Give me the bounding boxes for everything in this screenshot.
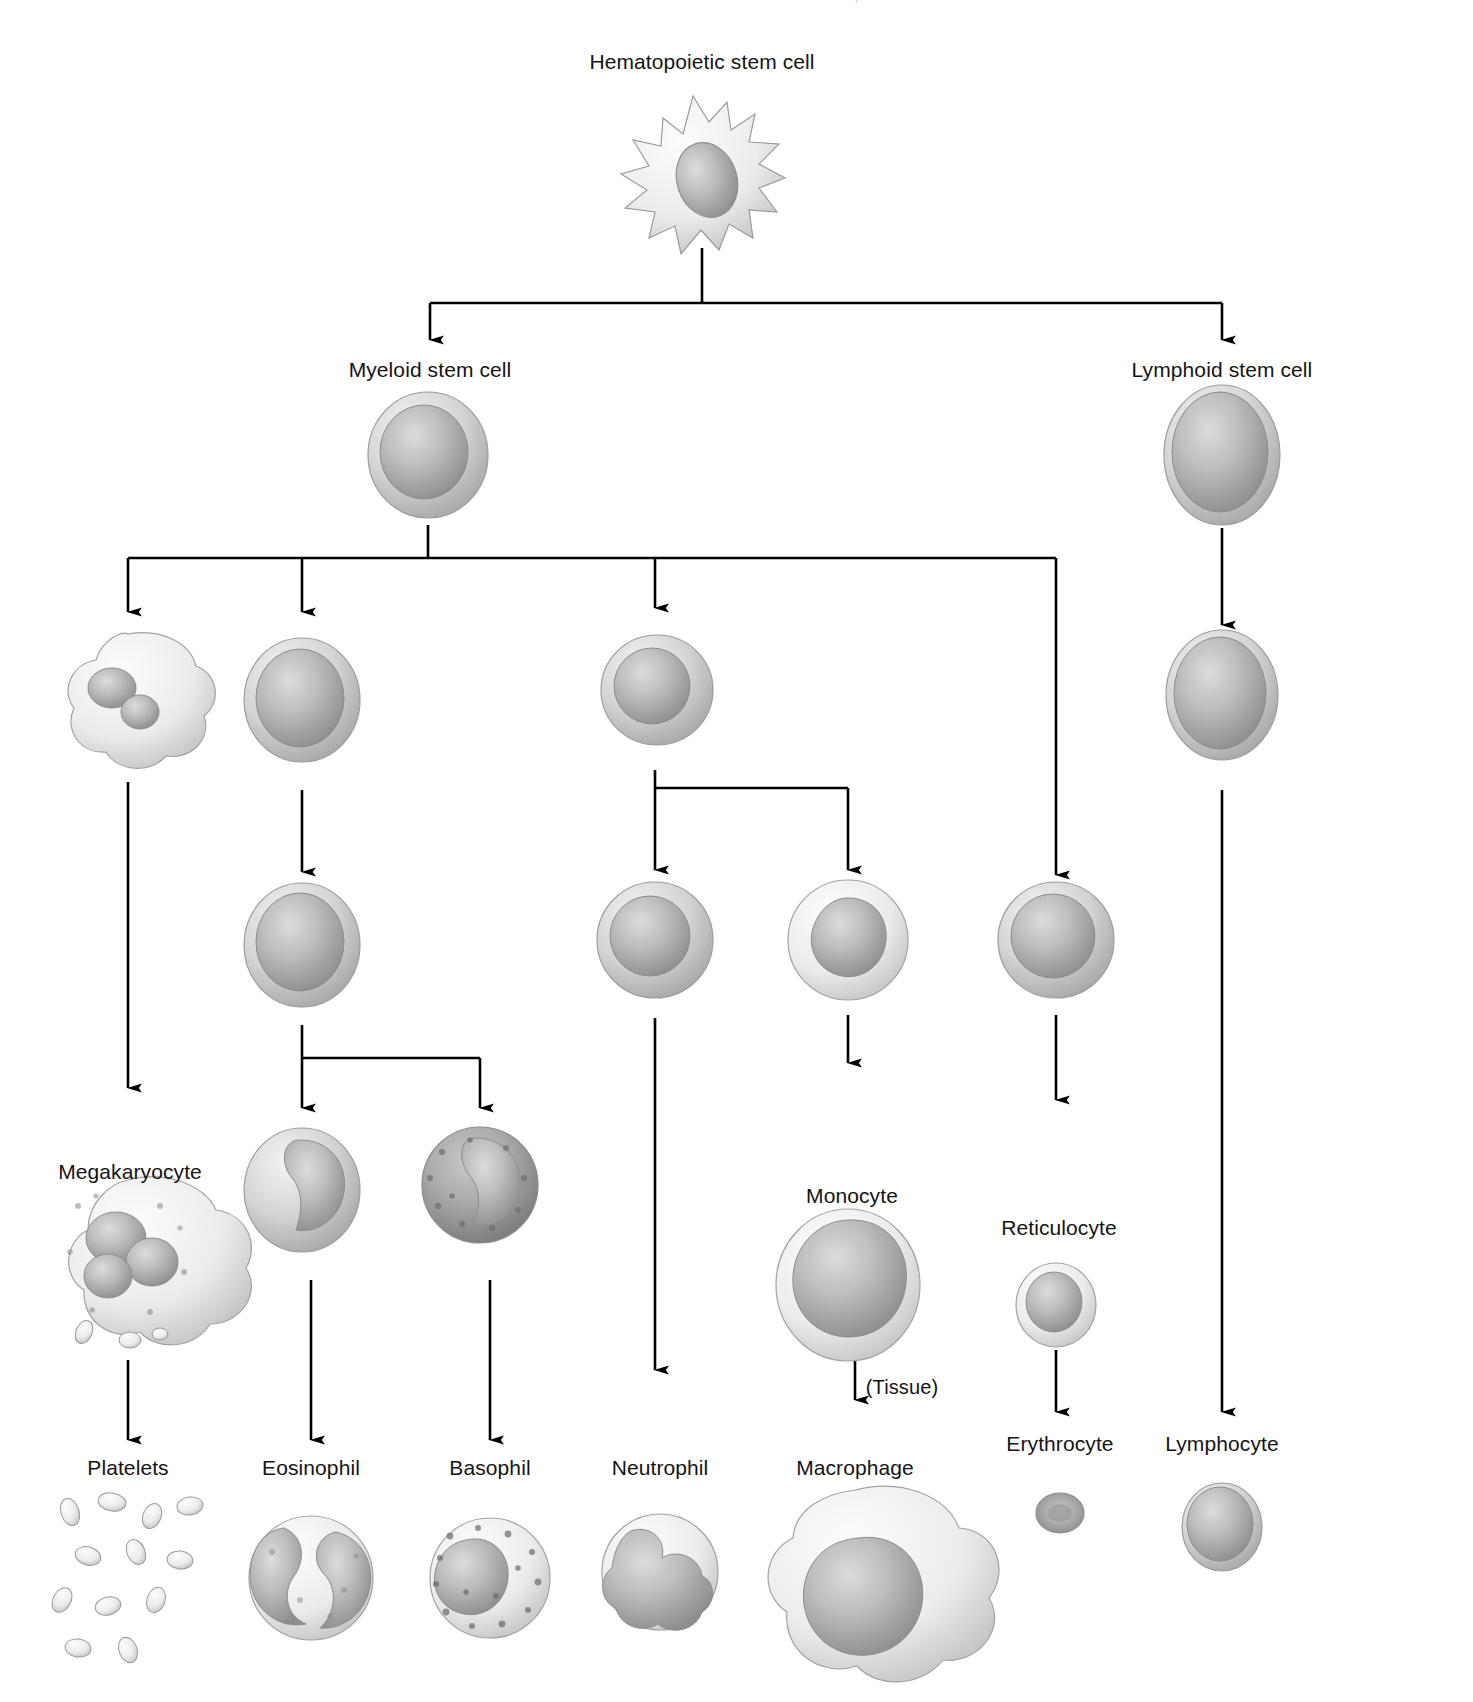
cell-erythroblast <box>998 882 1114 998</box>
label-megakaryocyte: Megakaryocyte <box>58 1160 202 1184</box>
cell-hematopoietic-stem-cell <box>621 96 785 254</box>
cell-erythrocyte <box>1036 1493 1084 1533</box>
cell-megakaryoblast <box>68 633 215 769</box>
hematopoiesis-diagram: l <box>0 0 1473 1702</box>
label-neutrophil: Neutrophil <box>612 1456 709 1480</box>
cell-eosinophil-progenitor <box>244 638 360 762</box>
cell-lymphoblast <box>1166 630 1278 760</box>
cell-basophil-band <box>422 1127 538 1243</box>
cell-reticulocyte <box>1016 1263 1096 1347</box>
cell-granulocyte-progenitor <box>601 635 713 745</box>
label-platelets: Platelets <box>87 1456 168 1480</box>
label-monocyte: Monocyte <box>806 1184 898 1208</box>
label-erythrocyte: Erythrocyte <box>1006 1432 1113 1456</box>
label-reticulocyte: Reticulocyte <box>1001 1216 1117 1240</box>
label-lymphocyte: Lymphocyte <box>1165 1432 1278 1456</box>
label-lymphoid-stem-cell: Lymphoid stem cell <box>1132 358 1313 382</box>
label-basophil: Basophil <box>449 1456 530 1480</box>
cell-megakaryocyte <box>67 1177 251 1348</box>
cell-eosinophil <box>249 1516 373 1640</box>
cell-myeloid-stem-cell <box>368 392 488 518</box>
cell-platelets <box>48 1491 204 1666</box>
cut-off-header-text: l <box>855 0 1295 4</box>
label-tissue-note: (Tissue) <box>866 1376 938 1399</box>
cell-eosinophil-band <box>244 1128 360 1252</box>
label-eosinophil: Eosinophil <box>262 1456 360 1480</box>
cell-lymphoid-stem-cell <box>1164 385 1280 525</box>
label-macrophage: Macrophage <box>796 1456 914 1480</box>
label-hematopoietic-stem-cell: Hematopoietic stem cell <box>589 50 814 74</box>
cell-neutrophil <box>602 1514 718 1630</box>
label-myeloid-stem-cell: Myeloid stem cell <box>349 358 512 382</box>
cell-neutrophil-band <box>597 882 713 998</box>
cell-lymphocyte <box>1182 1483 1262 1571</box>
cell-monocyte <box>776 1209 920 1361</box>
cell-basophil <box>430 1518 550 1638</box>
cell-myelocyte <box>244 883 360 1007</box>
cell-macrophage <box>768 1486 999 1682</box>
cell-promonocyte <box>788 880 908 1000</box>
